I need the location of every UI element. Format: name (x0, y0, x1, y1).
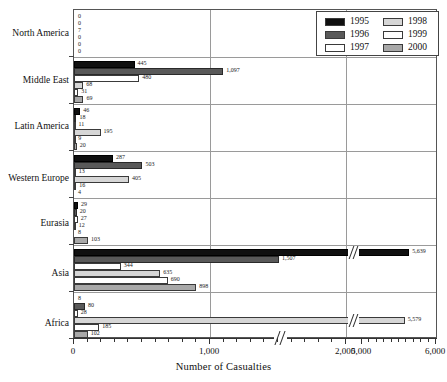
plot-area: 0070004451,09748068316946181119592028750… (73, 9, 437, 338)
bar-group-row: 5,579 (74, 317, 438, 324)
legend-label-1995: 1995 (350, 16, 369, 27)
x-axis-tick-label-6000: 6,000 (405, 346, 447, 357)
bar-value-label: 103 (91, 235, 100, 243)
x-axis-tick (223, 338, 224, 342)
bar-value-label: 287 (116, 153, 125, 161)
bar-group-row: 635 (74, 270, 438, 277)
legend: 1995 1996 1997 1998 1999 2000 (316, 11, 439, 56)
bar-value-label: 1,507 (282, 254, 296, 262)
bar-asia-1996 (74, 256, 279, 263)
gridline-y-eurasia (74, 245, 436, 246)
gridline-y-latin-america (74, 151, 436, 152)
x-axis-title: Number of Casualties (0, 361, 447, 372)
bar-value-label: 344 (124, 261, 133, 269)
bar-group-row: 80 (74, 303, 438, 310)
bar-group-row: 20 (74, 143, 438, 150)
bar-value-label: 405 (132, 174, 141, 182)
bar-value-label: 8 (78, 228, 81, 236)
legend-label-1999: 1999 (408, 29, 427, 40)
legend-label-1998: 1998 (408, 16, 427, 27)
bar-value-label: 4 (78, 188, 81, 196)
y-axis-label-africa: Africa (45, 318, 69, 329)
bar-western-europe-1997 (74, 169, 76, 176)
x-axis-tick (168, 338, 169, 342)
bar-value-label: 690 (171, 275, 180, 283)
bar-asia-1999 (74, 277, 168, 284)
bar-latin-america-2000 (74, 143, 77, 150)
bar-group-row: 12 (74, 223, 438, 230)
bar-group-row: 344 (74, 263, 438, 270)
bar-group-row: 13 (74, 169, 438, 176)
bar-latin-america-1999 (74, 136, 76, 143)
bar-group-row: 103 (74, 237, 438, 244)
bar-group-row: 287 (74, 155, 438, 162)
bar-eurasia-1997 (74, 216, 78, 223)
x-axis-tick (250, 338, 251, 342)
bar-group-row: 405 (74, 176, 438, 183)
x-axis-tick (331, 338, 332, 342)
x-axis-tick (155, 338, 156, 342)
x-axis-tick (318, 338, 319, 342)
bar-value-label: 503 (145, 160, 154, 168)
bar-asia-1998 (74, 270, 160, 277)
legend-swatch-1995 (325, 18, 345, 26)
x-axis-tick (182, 338, 183, 342)
x-axis-tick (376, 338, 377, 342)
bar-value-label: 80 (88, 301, 94, 309)
bar-middle-east-1999 (74, 89, 78, 96)
y-axis-label-latin-america: Latin America (14, 121, 69, 132)
y-axis-label-middle-east: Middle East (23, 75, 69, 86)
x-axis-tick (263, 338, 264, 342)
bar-africa-1997 (74, 310, 78, 317)
bar-group-row: 690 (74, 277, 438, 284)
bar-western-europe-1999 (74, 183, 76, 190)
y-axis-label-north-america: North America (12, 28, 69, 39)
bar-eurasia-1996 (74, 209, 77, 216)
y-axis-label-western-europe: Western Europe (8, 173, 69, 184)
x-axis-tick (87, 338, 88, 342)
bar-group-row: 480 (74, 75, 438, 82)
bar-latin-america-1996 (74, 115, 76, 122)
x-axis-tick (100, 338, 101, 342)
bar-value-label: 185 (102, 322, 111, 330)
bar-africa-2000 (74, 331, 88, 338)
bar-value-label: 13 (79, 167, 85, 175)
bar-group-row: 31 (74, 89, 438, 96)
x-axis-tick-label-1000: 1,000 (179, 346, 239, 357)
bar-group-row: 185 (74, 324, 438, 331)
x-axis-tick (413, 338, 414, 342)
bar-middle-east-2000 (74, 96, 83, 103)
x-axis-tick (73, 338, 74, 344)
legend-swatch-1998 (383, 18, 403, 26)
legend-swatch-1996 (325, 31, 345, 39)
casualties-bar-chart: 0070004451,09748068316946181119592028750… (0, 0, 447, 382)
bar-group-row: 69 (74, 96, 438, 103)
bar-value-label: 102 (91, 329, 100, 337)
bar-group-row: 8 (74, 296, 438, 303)
bar-value-label: 5,579 (408, 315, 422, 323)
bar-value-label: 11 (78, 120, 84, 128)
x-axis-tick (277, 338, 278, 342)
x-axis-tick (361, 338, 362, 344)
legend-label-2000: 2000 (408, 42, 427, 53)
x-axis-tick-label-5000: 5,000 (331, 346, 391, 357)
bar-group-row: 195 (74, 129, 438, 136)
x-axis-tick (209, 338, 210, 344)
x-axis-tick (398, 338, 399, 342)
bar-group-row: 4 (74, 190, 438, 197)
bar-group-row: 46 (74, 108, 438, 115)
x-axis-tick (304, 338, 305, 342)
bar-group-row: 5,639 (74, 249, 438, 256)
bar-group-row: 898 (74, 284, 438, 291)
bar-middle-east-1997 (74, 75, 139, 82)
legend-swatch-2000 (383, 44, 403, 52)
bar-value-label: 28 (81, 308, 87, 316)
bar-latin-america-1997 (74, 122, 76, 129)
bar-group-row: 8 (74, 230, 438, 237)
x-axis-tick (383, 338, 384, 342)
bar-value-label: 0 (78, 47, 81, 55)
bar-group-row: 445 (74, 61, 438, 68)
x-axis-tick (141, 338, 142, 342)
bar-group-row: 503 (74, 162, 438, 169)
x-axis-tick-label-0: 0 (43, 346, 103, 357)
